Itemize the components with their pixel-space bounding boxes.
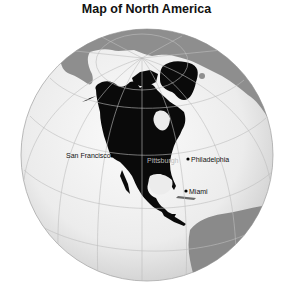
city-marker-philadelphia[interactable] (186, 157, 189, 160)
city-label-miami: Miami (189, 188, 208, 195)
city-label-san-francisco: San Francisco (66, 152, 111, 159)
city-marker-miami[interactable] (184, 189, 187, 192)
city-label-pittsburgh: Pittsburgh (147, 157, 179, 164)
city-label-philadelphia: Philadelphia (191, 156, 229, 163)
arctic-island (199, 73, 205, 79)
globe-map (0, 0, 293, 298)
